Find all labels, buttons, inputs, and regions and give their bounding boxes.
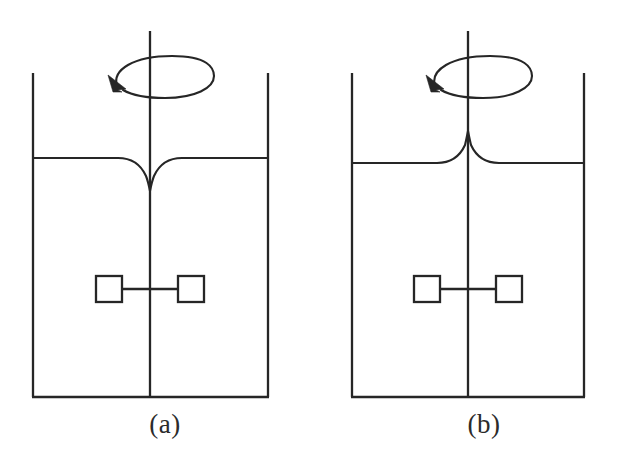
panel-label-b: (b) [424,409,544,440]
rotation-arrow-ellipse-b [434,56,532,98]
rotation-arrow-ellipse-a [116,56,214,98]
impeller-blade-left-a [96,276,122,302]
impeller-blade-left-b [414,276,440,302]
figure-drawing [0,0,617,461]
figure-container: (a) (b) [0,0,617,461]
panel-a-group [32,31,269,397]
panel-label-a: (a) [105,409,225,440]
panel-b-group [351,31,585,397]
impeller-blade-right-b [496,276,522,302]
impeller-blade-right-a [178,276,204,302]
